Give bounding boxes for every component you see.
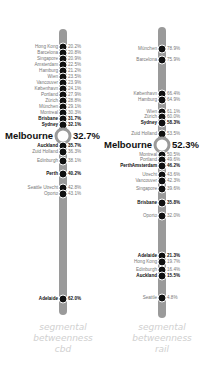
point-value: 42.8%: [68, 186, 81, 191]
point-label: Amsterdam: [35, 63, 59, 68]
point-value: 60.0%: [167, 115, 180, 120]
point-label: Vancouver: [36, 81, 58, 86]
point-label: Brisbane: [137, 201, 157, 206]
data-point-marker: [59, 148, 68, 157]
point-value: 62.0%: [68, 297, 81, 302]
point-label: Edinburgh: [37, 159, 58, 164]
point-value: 32.0%: [167, 214, 180, 219]
point-value: 42.3%: [167, 179, 180, 184]
point-label: Singapore: [136, 187, 157, 192]
caption-line: segmental: [13, 322, 113, 333]
point-value: 28.8%: [68, 99, 81, 104]
point-value: 31.7%: [68, 117, 81, 122]
data-point-marker: [158, 294, 167, 303]
point-value: 16.4%: [167, 268, 180, 273]
point-value: 39.6%: [167, 187, 180, 192]
point-value: 38.1%: [68, 159, 81, 164]
point-label: Adelaide: [138, 254, 157, 259]
data-point-marker: [158, 45, 167, 54]
data-point-marker: [158, 185, 167, 194]
point-label: København: [35, 87, 59, 92]
point-label: Edinburgh: [136, 268, 157, 273]
point-value: 32.7%: [73, 131, 100, 141]
point-label: Wien: [48, 75, 58, 80]
point-label: Hamburg: [138, 98, 157, 103]
point-label: Utrecht: [142, 173, 157, 178]
point-label: Zürich: [45, 99, 58, 104]
point-value: 22.5%: [68, 63, 81, 68]
caption-line: segmental: [112, 322, 211, 333]
point-value: 23.9%: [68, 81, 81, 86]
point-value: 20.8%: [68, 51, 81, 56]
data-point-marker: [158, 56, 167, 65]
point-value: 30.3%: [68, 111, 81, 116]
point-label: München: [39, 105, 58, 110]
point-label: Portland: [140, 158, 157, 163]
point-value: 35.7%: [68, 144, 81, 149]
point-label: Sydney: [141, 121, 157, 126]
point-value: 66.4%: [167, 92, 180, 97]
point-label: Barcelona: [37, 51, 58, 56]
data-point-marker: [158, 212, 167, 221]
point-value: 15.5%: [167, 274, 180, 279]
point-label: Hong Kong: [134, 260, 157, 265]
chart-caption: segmentalbetweennesscbd: [13, 322, 113, 355]
point-value: 21.3%: [167, 254, 180, 259]
point-label: Brisbane: [38, 117, 58, 122]
point-value: 36.3%: [68, 150, 81, 155]
point-label: Seattle Utrecht: [28, 186, 58, 191]
point-value: 64.9%: [167, 98, 180, 103]
point-extra-label: Perth: [120, 164, 132, 169]
point-label: Melbourne: [5, 131, 53, 141]
point-label: Zuid Holland: [32, 150, 58, 155]
data-point-marker: [158, 162, 167, 171]
data-point-marker: [158, 272, 167, 281]
chart-caption: segmentalbetweennessrail: [112, 322, 211, 355]
point-label: Auckland: [136, 274, 157, 279]
point-label: København: [134, 92, 158, 97]
point-label: Amsterdam: [132, 164, 157, 169]
data-point-marker: [59, 190, 68, 199]
point-value: 24.1%: [68, 87, 81, 92]
point-value: 43.6%: [167, 173, 180, 178]
point-label: Vancouver: [135, 179, 157, 184]
point-label: Adelaide: [39, 297, 58, 302]
point-value: 78.9%: [167, 47, 180, 52]
point-label: Zürich: [144, 115, 157, 120]
caption-line: cbd: [13, 344, 113, 355]
point-label: Melbourne: [104, 140, 152, 150]
point-label: Hamburg: [39, 69, 58, 74]
point-value: 53.5%: [167, 132, 180, 137]
point-label: Hong Kong: [35, 45, 58, 50]
point-value: 27.9%: [68, 93, 81, 98]
point-label: Barcelona: [136, 58, 157, 63]
point-label: Auckland: [37, 144, 58, 149]
point-value: 20.9%: [68, 57, 81, 62]
point-label: Portland: [41, 93, 58, 98]
point-value: 75.9%: [167, 58, 180, 63]
data-point-marker: [59, 157, 68, 166]
point-value: 43.1%: [68, 192, 81, 197]
data-point-marker: [158, 119, 167, 128]
point-value: 52.3%: [172, 140, 199, 150]
point-label: Zuid Holland: [131, 132, 157, 137]
point-label: Singapore: [37, 57, 58, 62]
point-label: Oporto: [44, 192, 58, 197]
point-value: 19.7%: [167, 260, 180, 265]
point-value: 40.2%: [68, 172, 81, 177]
point-label: Montreal: [40, 111, 58, 116]
point-label: Oporto: [143, 214, 157, 219]
data-point-marker: [59, 295, 68, 304]
point-value: 58.3%: [167, 121, 180, 126]
point-label: Perth: [46, 172, 58, 177]
point-label: München: [138, 47, 157, 52]
point-value: 29.1%: [68, 105, 81, 110]
point-value: 35.8%: [167, 201, 180, 206]
data-point-marker: [59, 170, 68, 179]
point-value: 20.2%: [68, 45, 81, 50]
data-point-marker: [158, 199, 167, 208]
point-value: 4.8%: [167, 296, 177, 301]
caption-line: betweenness: [112, 333, 211, 344]
point-value: 32.1%: [68, 123, 81, 128]
point-value: 49.6%: [167, 158, 180, 163]
